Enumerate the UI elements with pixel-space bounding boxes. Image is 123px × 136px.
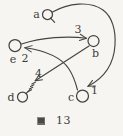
edge-a-c	[53, 4, 116, 86]
edge-label-2: 2	[22, 52, 29, 65]
edge-e-b	[22, 37, 87, 44]
edge-label-4: 4	[35, 67, 42, 80]
hatch-tick	[31, 85, 34, 87]
caption-kanji-zu: 図	[37, 117, 45, 125]
node-d-label: d	[7, 91, 14, 104]
node-e	[9, 40, 21, 52]
node-b-label: b	[92, 47, 99, 60]
caption-figure-number: 13	[56, 114, 71, 127]
node-e-label: e	[10, 53, 17, 66]
node-a-label: a	[33, 8, 40, 21]
node-c-label: c	[68, 91, 74, 104]
edge-label-3: 3	[75, 23, 82, 36]
edge-label-1: 1	[91, 84, 98, 97]
figure-13: a b c d e 1 2 3 4 図 13	[0, 0, 123, 136]
node-d-tail	[26, 90, 30, 94]
node-c	[77, 90, 89, 102]
hatch-tick	[29, 87, 32, 89]
node-b	[88, 36, 99, 47]
hatch-tick	[32, 82, 35, 84]
node-a-tail	[51, 18, 55, 22]
figure-caption: 図 13	[37, 114, 71, 127]
